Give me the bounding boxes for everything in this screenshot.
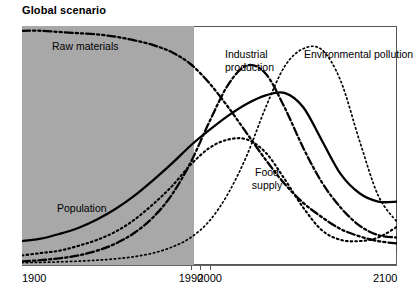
- plot-area: Raw materials Population Food supply Ind…: [22, 26, 397, 265]
- x-axis-right-cap: [396, 254, 397, 265]
- x-axis-label-2000: 2000: [198, 272, 222, 284]
- x-axis-tick-1990: [191, 265, 192, 270]
- x-axis-label-1900: 1900: [22, 272, 46, 284]
- curve-label-raw-materials: Raw materials: [52, 40, 119, 52]
- curve-environmental-pollution: [22, 46, 397, 262]
- industrial-line-2: production: [225, 61, 274, 73]
- food-supply-line-2: supply: [252, 179, 282, 191]
- curve-label-population: Population: [57, 202, 107, 214]
- curves-svg: [22, 26, 397, 265]
- curve-industrial-production: [22, 65, 397, 261]
- chart-root: Global scenario Raw materials Population…: [0, 0, 418, 293]
- x-axis-tick-2000: [210, 265, 211, 270]
- curve-label-food-supply: Food supply: [237, 166, 297, 192]
- page-title: Global scenario: [22, 4, 106, 16]
- food-supply-line-1: Food: [255, 166, 279, 178]
- x-axis-label-2100: 2100: [373, 272, 397, 284]
- industrial-line-1: Industrial: [225, 48, 268, 60]
- x-axis-tick-1995: [200, 265, 201, 270]
- curve-label-industrial-production: Industrial production: [225, 48, 293, 74]
- curve-label-environmental-pollution: Environmental pollution: [304, 48, 413, 60]
- curve-food-supply: [22, 138, 397, 255]
- curve-population: [22, 92, 397, 241]
